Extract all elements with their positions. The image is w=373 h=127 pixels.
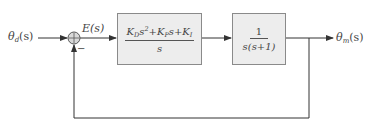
input-label: θd(s) [8,30,33,44]
plant-transfer-function: 1 s(s+1) [243,26,276,52]
plant-denominator: s(s+1) [243,39,276,52]
controller-denominator: s [157,41,162,54]
controller-block: KDs2+KPs+KI s [117,13,202,65]
controller-transfer-function: KDs2+KPs+KI s [125,25,195,54]
plant-block: 1 s(s+1) [232,13,286,65]
plant-numerator: 1 [250,26,268,39]
minus-sign: − [77,43,85,54]
error-label: E(s) [82,22,104,35]
output-label: θm(s) [336,31,364,45]
controller-numerator: KDs2+KPs+KI [125,25,195,41]
